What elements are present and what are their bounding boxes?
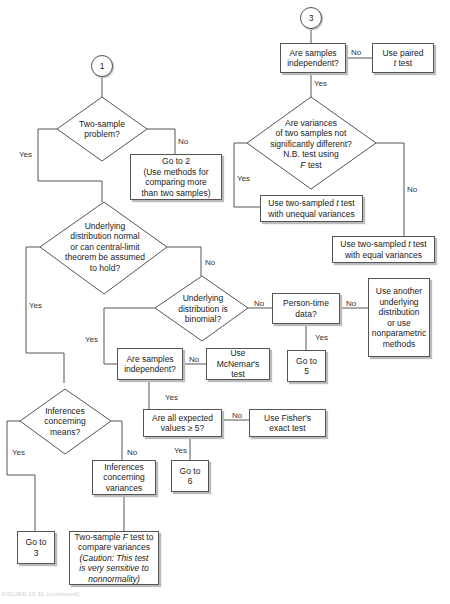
text-binomial: Underlying distribution is binomial?: [165, 292, 241, 326]
box-samples-independent-1: Are samples independent?: [117, 348, 183, 380]
box-inferences-variances: Inferences concerning variances: [92, 460, 156, 495]
label-no-person-time: No: [346, 299, 356, 308]
label-no-paired: No: [351, 48, 361, 57]
label-yes-binomial: Yes: [85, 335, 98, 344]
text-variances-question: Are variances of two samples not signifi…: [247, 118, 375, 170]
label-no-normal: No: [205, 258, 215, 267]
box-person-time: Person-time data?: [272, 293, 340, 324]
label-yes-two-sample: Yes: [19, 150, 32, 159]
figure-caption: FIGURE 10.11 (continued): [2, 591, 80, 597]
text-two-sample-problem: Two-sample problem?: [62, 118, 142, 140]
label-yes-samples: Yes: [165, 393, 178, 402]
box-another-distribution: Use another underlying distribution or u…: [368, 278, 430, 357]
box-samples-independent-3: Are samples independent?: [280, 43, 346, 73]
label-yes-means: Yes: [12, 448, 25, 457]
label-no-fisher: No: [232, 411, 242, 420]
connector-3-label: 3: [309, 13, 314, 23]
label-yes-independent: Yes: [314, 79, 327, 88]
box-goto-2: Go to 2 (Use methods for comparing more …: [130, 154, 222, 200]
connector-3: 3: [300, 7, 322, 29]
label-no-binomial: No: [254, 299, 264, 308]
box-goto-3: Go to 3: [17, 531, 55, 564]
label-no-mcnemar: No: [189, 355, 199, 364]
label-no-means: No: [127, 448, 137, 457]
text-underlying-normal: Underlying distribution normal or can ce…: [50, 220, 160, 274]
label-no-equal: No: [407, 185, 417, 194]
connector-1-label: 1: [100, 61, 105, 71]
label-yes-expected: Yes: [174, 446, 187, 455]
label-yes-person-time: Yes: [315, 333, 328, 342]
label-no-two-sample: No: [178, 137, 188, 146]
box-fisher: Use Fisher's exact test: [249, 409, 326, 437]
box-expected-values: Are all expected values ≥ 5?: [143, 409, 222, 437]
box-unequal-variances: Use two-sampled t test with unequal vari…: [260, 195, 363, 222]
label-yes-normal: Yes: [29, 301, 42, 310]
box-goto-6: Go to 6: [171, 460, 209, 492]
connector-1: 1: [91, 55, 113, 77]
label-yes-unequal: Yes: [237, 174, 250, 183]
text-inferences-means: Inferences concerning means?: [30, 405, 100, 438]
box-f-test: Two-sample F test to compare variances(C…: [69, 531, 159, 585]
box-mcnemar: Use McNemar's test: [206, 348, 270, 380]
box-goto-5: Go to 5: [287, 350, 326, 382]
box-equal-variances: Use two-sampled t test with equal varian…: [332, 236, 435, 263]
box-paired-t-test: Use pairedt test: [372, 43, 434, 73]
